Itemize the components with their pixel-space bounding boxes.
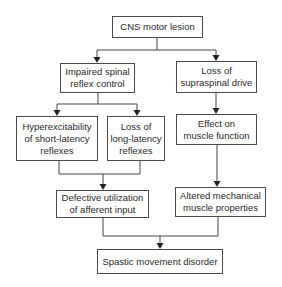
node-impaired-spinal-reflex-control: Impaired spinal reflex control: [60, 63, 135, 93]
node-loss-of-supraspinal-drive: Loss of supraspinal drive: [176, 61, 257, 93]
node-defective-utilization: Defective utilization of afferent input: [56, 190, 149, 218]
edge-defective-altered-merge: [103, 216, 218, 236]
node-cns-motor-lesion: CNS motor lesion: [112, 16, 203, 38]
node-spastic-movement-disorder: Spastic movement disorder: [97, 249, 223, 274]
edge-hyper-loss-long-merge: [59, 160, 140, 174]
node-loss-of-long-latency-reflexes: Loss of long-latency reflexes: [107, 116, 165, 161]
flowchart-canvas: CNS motor lesion Impaired spinal reflex …: [0, 0, 282, 287]
node-altered-mechanical-muscle-properties: Altered mechanical muscle properties: [175, 187, 266, 217]
node-effect-on-muscle-function: Effect on muscle function: [176, 114, 257, 145]
node-hyperexcitability-short-latency: Hyperexcitability of short-latency refle…: [16, 116, 98, 161]
